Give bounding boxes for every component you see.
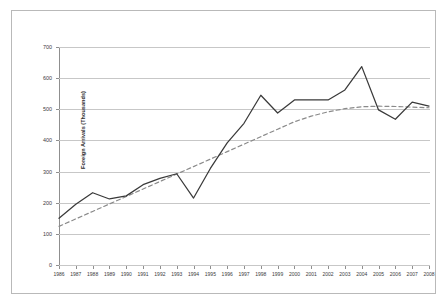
chart-container: 0100200300400500600700 19861987198819891…	[0, 0, 448, 305]
data-line-path	[59, 67, 429, 219]
series-layer	[0, 0, 448, 305]
